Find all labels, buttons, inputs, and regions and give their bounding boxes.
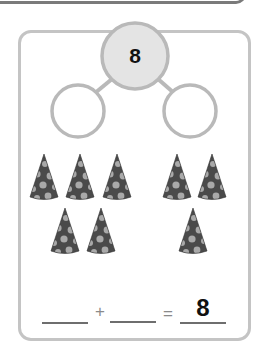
- hat-group-left: [30, 154, 131, 255]
- part-circle-left[interactable]: [52, 85, 104, 137]
- party-hat-icon: [51, 208, 79, 255]
- party-hat-icon: [103, 154, 131, 201]
- part-circle-right[interactable]: [164, 85, 216, 137]
- sum-blank: [180, 322, 226, 324]
- addend-2-blank[interactable]: [110, 321, 156, 323]
- party-hat-icon: [179, 208, 207, 255]
- sum-value: 8: [180, 296, 226, 320]
- connector-left: [95, 79, 112, 93]
- addend-1-blank[interactable]: [42, 322, 88, 324]
- hat-group-right: [163, 154, 226, 255]
- whole-number: 8: [100, 38, 170, 74]
- party-hat-icon: [87, 208, 115, 255]
- party-hat-icon: [30, 154, 58, 201]
- party-hat-icon: [198, 154, 226, 201]
- party-hat-icon: [66, 154, 94, 201]
- party-hat-icon: [163, 154, 191, 201]
- plus-sign: +: [95, 303, 105, 321]
- equals-sign: =: [163, 305, 173, 323]
